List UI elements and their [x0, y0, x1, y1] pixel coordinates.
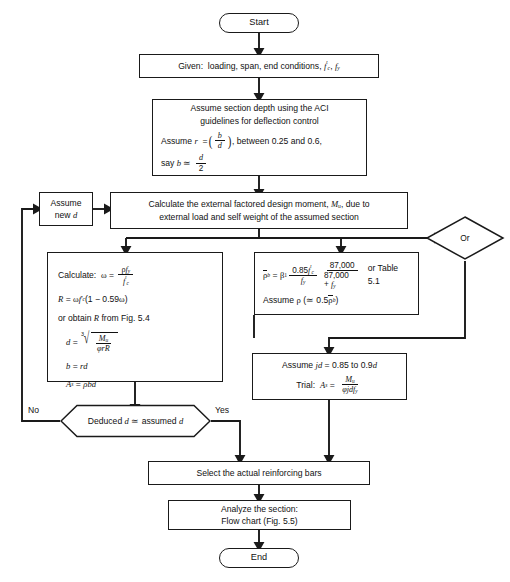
assume-depth-eq: = — [203, 135, 208, 147]
edge-label-yes: Yes — [215, 405, 229, 415]
f1-coef: 0.85 — [292, 266, 308, 275]
node-analyze-section[interactable]: Analyze the section: Flow chart (Fig. 5.… — [168, 500, 351, 530]
R-symbol: R — [58, 293, 63, 305]
rho-b-sub: b — [267, 271, 270, 279]
calculate-As-line: As = ρbd — [66, 378, 96, 390]
rho-frac-2: 87,000 87,000 + fy — [321, 261, 363, 289]
node-assume-new-d[interactable]: Assume new d — [39, 192, 93, 226]
node-rho-balanced[interactable]: ρb = β1 0.85f′c fy 87,000 87,000 + fy or… — [254, 252, 419, 315]
d2-num: d — [199, 153, 203, 162]
given-text: Given: loading, span, end conditions, f′… — [178, 59, 340, 72]
start-label: Start — [249, 16, 268, 29]
fy-sub: y — [128, 268, 130, 274]
flowchart-canvas: Start Given: loading, span, end conditio… — [0, 0, 510, 582]
figref-prefix: or obtain — [58, 312, 91, 324]
As-sub: s — [71, 380, 73, 388]
trial-As-sub: s — [325, 381, 327, 389]
given-prefix: Given: — [178, 61, 203, 71]
rho-table-ref: or Table 5.1 — [368, 262, 410, 287]
calculate-label: Calculate: — [58, 269, 96, 281]
d-fraction: Mu φrR — [94, 334, 113, 353]
calc-mu-tail: , due to — [341, 199, 370, 209]
calc-mu-line2: external load and self weight of the ass… — [159, 211, 359, 223]
assume-jd-line2: Trial: As = Mu φjdfy — [296, 375, 362, 394]
d-num-sub: u — [105, 337, 108, 343]
edge-decision-yes — [211, 421, 240, 461]
calc-mu-line1: Calculate the external factored design m… — [148, 198, 369, 210]
or-label: Or — [460, 233, 469, 243]
assume-depth-approx: ≃ — [183, 157, 191, 169]
node-end[interactable]: End — [219, 548, 299, 568]
assume-new-d-line2: new d — [55, 209, 77, 221]
ratio-den: d — [218, 141, 222, 150]
decision-label: Deduced d ≃ assumed d — [88, 416, 183, 426]
assume-depth-line3: Assume r = ( b d ) , between 0.25 and 0.… — [161, 131, 358, 150]
assume-depth-line2: guidelines for deflection control — [200, 115, 318, 127]
analyze-line2: Flow chart (Fig. 5.5) — [221, 515, 297, 527]
node-or-decision[interactable]: Or — [425, 215, 505, 261]
jd-eq: = — [325, 359, 330, 371]
node-start[interactable]: Start — [219, 13, 299, 33]
rho-assume-symbol: ρ — [296, 294, 300, 306]
omega-fraction: ρfy f′c — [118, 265, 133, 286]
jd-d: d — [373, 359, 377, 371]
decision-word-deduced: Deduced — [88, 416, 122, 426]
trial-label: Trial: — [296, 379, 315, 391]
given-body: loading, span, end conditions, — [208, 61, 322, 71]
beta-sub: 1 — [284, 271, 287, 279]
rho-assume-open: (≃ 0.5 — [303, 294, 328, 306]
given-fy-sub: y — [337, 65, 340, 71]
assume-depth-say: say — [161, 157, 174, 169]
calc-mu-text: Calculate the external factored design m… — [148, 199, 328, 209]
assume-depth-b: b — [177, 157, 181, 169]
b-symbol: b — [66, 360, 70, 372]
rho-bal-assume: Assume ρ (≃ 0.5ρb) — [263, 294, 338, 306]
paren-close-icon: ) — [228, 136, 232, 146]
calculate-omega-line: Calculate: ω = ρfy f′c — [58, 265, 135, 286]
jd-range: 0.85 to 0.9 — [332, 359, 373, 371]
assume-depth-dover2: d 2 — [196, 153, 207, 172]
f1-den-sub: y — [303, 279, 305, 285]
trial-num-M: M — [345, 375, 352, 384]
cube-root-icon: 3 √ Mu φrR — [81, 332, 118, 353]
select-bars-label: Select the actual reinforcing bars — [196, 467, 321, 479]
As-eq: = — [76, 378, 81, 390]
d2-den: 2 — [196, 164, 207, 173]
assume-new-d-var: d — [73, 210, 77, 220]
edge-label-no: No — [28, 405, 39, 415]
node-assume-section-depth[interactable]: Assume section depth using the ACI guide… — [152, 99, 367, 176]
omega-symbol: ω — [101, 269, 107, 281]
analyze-line1: Analyze the section: — [221, 503, 298, 515]
assume-depth-verb: Assume — [161, 135, 192, 147]
assume-new-d-line1: Assume — [50, 197, 81, 209]
node-calculate[interactable]: Calculate: ω = ρfy f′c R = ωf′c(1 − 0.59… — [47, 252, 223, 382]
rho-eq: = — [273, 269, 278, 281]
node-decision-deduced-d[interactable]: Deduced d ≃ assumed d — [60, 404, 211, 438]
As-value: ρbd — [83, 378, 96, 390]
f1-sub: c — [312, 269, 314, 275]
rho-bal-equation: ρb = β1 0.85f′c fy 87,000 87,000 + fy or… — [263, 261, 410, 289]
assume-depth-ratio: b d — [215, 131, 225, 150]
omega-eq: = — [109, 269, 114, 281]
b-value: rd — [80, 360, 87, 372]
d-eq: = — [73, 336, 78, 348]
trial-eq: = — [330, 379, 335, 391]
calc-mu-m: M — [331, 199, 338, 209]
R-eq: = — [66, 293, 71, 305]
calculate-figref-line: or obtain R from Fig. 5.4 — [58, 312, 150, 324]
node-assume-jd[interactable]: Assume jd = 0.85 to 0.9d Trial: As = Mu … — [252, 353, 407, 400]
b-eq: = — [73, 360, 78, 372]
node-given[interactable]: Given: loading, span, end conditions, f′… — [139, 54, 379, 78]
rho-frac-1: 0.85f′c fy — [289, 264, 317, 285]
node-calculate-mu[interactable]: Calculate the external factored design m… — [110, 192, 408, 229]
R-expr: (1 − 0.59 — [85, 293, 119, 305]
node-select-bars[interactable]: Select the actual reinforcing bars — [148, 461, 370, 485]
decision-d1: d — [125, 416, 129, 426]
f2-den-sub: y — [333, 283, 335, 289]
assume-depth-r: r — [194, 135, 197, 147]
assume-depth-line1: Assume section depth using the ACI — [190, 102, 328, 114]
jd-assume-word: Assume — [282, 359, 313, 371]
calculate-R-line: R = ωf′c(1 − 0.59 ω) — [58, 293, 128, 305]
R-close: ) — [125, 293, 128, 305]
figref-R: R — [94, 312, 99, 324]
